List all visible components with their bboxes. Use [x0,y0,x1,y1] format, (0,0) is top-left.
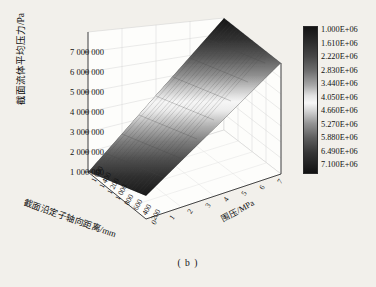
colorbar-tick-label: 4.660E+06 [321,107,358,115]
plot-area: 截面流体平均压力/Pa 1 000 000 2 000 000 3 000 00… [0,0,300,250]
colorbar-tick-label: 6.490E+06 [321,148,358,156]
z-tick-label: 6 [258,184,266,191]
colorbar-tick-label: 2.220E+06 [321,53,358,61]
colorbar-tick-label: 4.050E+06 [321,94,358,102]
colorbar-gradient [303,26,318,174]
z-tick-label: 1 [168,214,176,221]
figure-caption-text: ( b ) [178,258,199,268]
z-tick-label: 3 [204,202,212,209]
figure-caption: ( b ) [0,258,376,268]
z-tick-label: 7 [276,178,284,185]
z-tick-label: 4 [222,196,230,203]
colorbar-tick-label: 3.440E+06 [321,80,358,88]
colorbar: 1.000E+06 1.610E+06 2.220E+06 2.830E+06 … [303,26,376,174]
colorbar-swatch [304,27,317,173]
colorbar-labels: 1.000E+06 1.610E+06 2.220E+06 2.830E+06 … [321,26,376,174]
colorbar-tick-label: 1.610E+06 [321,40,358,48]
colorbar-tick-label: 5.270E+06 [321,121,358,129]
figure-container: 截面流体平均压力/Pa 1 000 000 2 000 000 3 000 00… [0,0,376,287]
colorbar-tick-label: 7.100E+06 [321,161,358,169]
z-tick-label: 0 [150,219,158,226]
z-axis-ticks: 0 1 2 3 4 5 6 7 [0,0,300,250]
colorbar-tick-label: 2.830E+06 [321,67,358,75]
colorbar-tick-label: 1.000E+06 [321,26,358,34]
colorbar-tick-label: 5.880E+06 [321,134,358,142]
z-tick-label: 2 [186,208,194,215]
